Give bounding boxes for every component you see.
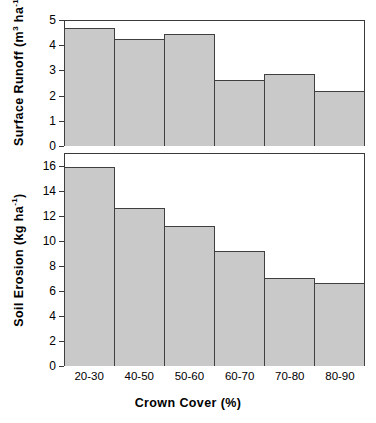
y-axis-tick-mark [59,291,64,292]
x-axis-tick-label: 20-30 [64,370,114,382]
y-axis-tick-label: 10 [43,235,56,247]
bar-series-soil-erosion [64,153,365,366]
y-axis-tick-label: 5 [49,14,56,26]
y-axis-tick-mark [59,96,64,97]
bar [114,208,165,366]
y-axis-tick-label: 2 [49,335,56,347]
panel-surface-runoff: 012345 [64,20,365,146]
bar [64,28,115,146]
bar-series-surface-runoff [64,20,365,146]
y-axis-tick-label: 3 [49,64,56,76]
bar [164,226,215,366]
y-axis-tick-mark [59,216,64,217]
bar [214,251,265,366]
bar [214,80,265,146]
y-axis-tick-mark [59,191,64,192]
x-axis-tick-label: 60-70 [215,370,265,382]
y-axis-tick-mark [59,121,64,122]
y-axis-tick-mark [59,45,64,46]
bar [314,91,365,146]
y-axis-tick-mark [59,316,64,317]
bar [114,39,165,146]
x-axis-label: Crown Cover (%) [0,396,376,410]
panel-soil-erosion: 0246810121416 [64,153,365,366]
bar [64,167,115,366]
y-axis-tick-label: 4 [49,310,56,322]
bar [314,283,365,366]
y-axis-tick-label: 4 [49,39,56,51]
y-axis-tick-label: 0 [49,360,56,372]
y-axis-tick-label: 14 [43,185,56,197]
y-axis-label-surface-runoff: Surface Runoff (m3 ha-1) [11,20,27,146]
x-axis-tick-label: 50-60 [164,370,214,382]
y-axis-tick-mark [59,241,64,242]
figure: Surface Runoff (m3 ha-1) 012345 Soil Ero… [0,0,376,423]
y-axis-tick-mark [59,70,64,71]
x-axis-tick-label: 80-90 [315,370,365,382]
y-axis-tick-mark [59,166,64,167]
y-axis-tick-label: 0 [49,140,56,152]
y-axis-tick-mark [59,146,64,147]
y-axis-tick-label: 1 [49,115,56,127]
x-axis-tick-labels: 20-3040-5050-6060-7070-8080-90 [64,370,365,382]
y-axis-tick-label: 8 [49,260,56,272]
y-axis-tick-label: 2 [49,90,56,102]
bar [164,34,215,146]
y-axis-label-soil-erosion: Soil Erosion (kg ha-1) [11,154,27,367]
y-axis-tick-label: 16 [43,160,56,172]
bar [264,74,315,146]
x-axis-tick-label: 40-50 [114,370,164,382]
y-axis-tick-label: 12 [43,210,56,222]
bar [264,278,315,366]
y-axis-tick-mark [59,266,64,267]
y-axis-tick-mark [59,20,64,21]
x-axis-tick-label: 70-80 [265,370,315,382]
y-axis-tick-mark [59,341,64,342]
y-axis-tick-label: 6 [49,285,56,297]
y-axis-tick-mark [59,366,64,367]
